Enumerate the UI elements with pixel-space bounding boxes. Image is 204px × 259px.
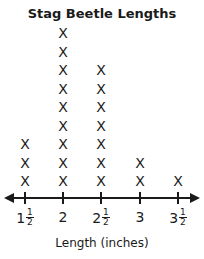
axis-arrow-right (190, 193, 200, 203)
x-marker: X (133, 174, 147, 188)
tick-label: 212 (81, 208, 121, 227)
x-marker: X (56, 82, 70, 96)
chart-title: Stag Beetle Lengths (0, 6, 204, 21)
x-marker: X (18, 156, 32, 170)
x-marker: X (94, 174, 108, 188)
x-axis-label: Length (inches) (0, 236, 204, 250)
tick-label: 312 (158, 208, 198, 227)
x-marker: X (56, 26, 70, 40)
x-marker: X (94, 119, 108, 133)
x-marker: X (56, 63, 70, 77)
axis-tick (24, 192, 26, 204)
x-marker: X (94, 100, 108, 114)
x-marker: X (94, 63, 108, 77)
x-marker: X (56, 45, 70, 59)
x-marker: X (18, 137, 32, 151)
axis-tick (62, 192, 64, 204)
axis-tick (100, 192, 102, 204)
x-marker: X (94, 82, 108, 96)
tick-label: 3 (120, 208, 160, 225)
number-line-axis (8, 197, 196, 199)
axis-tick (177, 192, 179, 204)
x-marker: X (56, 156, 70, 170)
tick-label: 112 (5, 208, 45, 227)
tick-label: 2 (43, 208, 83, 225)
x-marker: X (56, 100, 70, 114)
x-marker: X (133, 156, 147, 170)
x-marker: X (171, 174, 185, 188)
x-marker: X (56, 174, 70, 188)
x-marker: X (56, 137, 70, 151)
x-marker: X (94, 156, 108, 170)
x-marker: X (56, 119, 70, 133)
x-marker: X (94, 137, 108, 151)
x-marker: X (18, 174, 32, 188)
axis-tick (139, 192, 141, 204)
